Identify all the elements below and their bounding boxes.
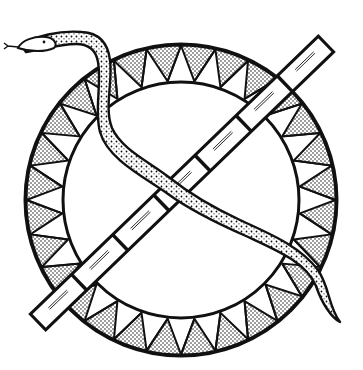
snake-staff-ring-illustration xyxy=(0,0,363,370)
snake-tongue xyxy=(4,43,18,49)
snake-eye xyxy=(43,41,46,44)
snake-head xyxy=(18,37,56,51)
